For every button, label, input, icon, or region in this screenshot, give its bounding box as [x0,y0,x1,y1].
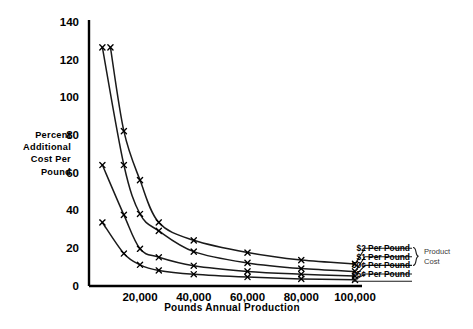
y-tick-label: 0 [73,280,79,292]
y-axis-title-line: Additional [23,142,71,152]
legend-item-label: 25¢ Per Pound [352,269,410,279]
y-axis-title: PercentAdditionalCost PerPound [23,130,71,177]
series-curve [102,222,355,279]
data-series-group [102,47,355,279]
data-point-marker [156,220,161,225]
data-point-marker [137,262,142,267]
y-axis-title-line: Percent [35,130,71,140]
x-axis-title: Pounds Annual Production [164,302,300,313]
data-point-marker [100,220,105,225]
legend-group-label-line: Product [424,247,451,256]
chart-figure: 020406080100120140 20,00040,00060,00080,… [0,0,473,329]
legend-group-label-line: Cost [424,257,441,266]
series-curve [110,47,355,263]
y-axis-title-line: Cost Per [31,154,71,164]
y-tick-label: 140 [60,16,79,28]
series-curve [102,47,355,271]
y-tick-label: 120 [60,54,79,66]
data-point-marker [121,251,126,256]
x-tick-label: 20,000 [122,291,157,303]
y-tick-label: 40 [66,204,79,216]
x-tick-label: 100,000 [334,291,376,303]
legend-brace [413,248,419,266]
y-tick-label: 100 [60,91,79,103]
legend-group-label: ProductCost [424,247,451,266]
data-point-marker [137,246,142,251]
data-point-marker [156,228,161,233]
y-tick-label: 20 [66,242,79,254]
data-point-markers [100,45,358,283]
legend: $2 Per Pound$1 Per Pound50¢ Per Pound25¢… [352,243,412,281]
data-point-marker [137,211,142,216]
y-axis-title-line: Pound [41,167,71,177]
chart-svg: 020406080100120140 20,00040,00060,00080,… [0,0,473,329]
